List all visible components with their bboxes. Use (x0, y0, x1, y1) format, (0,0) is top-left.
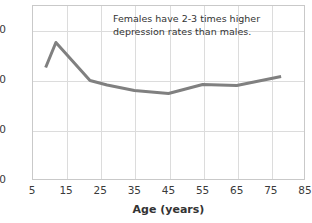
x-axis-tick-label: 45 (154, 184, 184, 196)
x-axis-tick-label: 15 (51, 184, 81, 196)
x-axis-tick-label: 35 (119, 184, 149, 196)
y-axis-tick-label: 3.0 (0, 24, 6, 35)
x-axis-tick-label: 5 (17, 184, 47, 196)
x-axis-tick-label: 65 (222, 184, 252, 196)
depression-rate-line-chart: 01.02.03.0 51525354555657585 Females hav… (0, 0, 312, 223)
x-axis-tick-label: 85 (290, 184, 312, 196)
x-axis-tick-label: 55 (188, 184, 218, 196)
y-axis-tick-label: 2.0 (0, 74, 6, 85)
gridline-vertical (101, 6, 102, 179)
x-axis-tick-label: 75 (256, 184, 286, 196)
gridline-vertical (67, 6, 68, 179)
y-axis-tick-label: 1.0 (0, 124, 6, 135)
gridline-horizontal (33, 81, 304, 82)
y-axis-tick-label: 0 (0, 174, 6, 185)
chart-annotation-text: Females have 2-3 times higher depression… (113, 13, 303, 38)
x-axis-tick-label: 25 (85, 184, 115, 196)
gridline-horizontal (33, 131, 304, 132)
x-axis-title: Age (years) (32, 203, 305, 216)
